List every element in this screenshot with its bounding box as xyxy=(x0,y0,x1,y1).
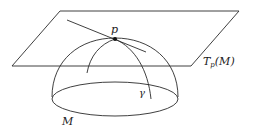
back-meridian xyxy=(87,39,115,73)
label-tangent-plane: Tp(M) xyxy=(203,55,235,69)
point-p xyxy=(113,37,117,41)
curve-gamma xyxy=(115,39,151,99)
label-gamma: γ xyxy=(139,87,145,98)
hemisphere-dome xyxy=(52,38,178,97)
label-tangent-plane-arg: (M) xyxy=(215,55,235,68)
label-manifold-M: M xyxy=(61,115,74,128)
label-p: p xyxy=(111,23,118,36)
tangent-plane-diagram: p Tp(M) γ M xyxy=(0,0,253,129)
hemisphere-base xyxy=(52,82,178,116)
